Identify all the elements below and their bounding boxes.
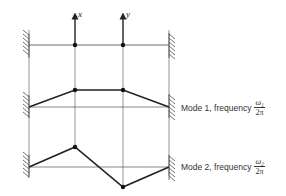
mode-1-frequency-denominator: 2π (255, 108, 265, 117)
vertical-guides (29, 30, 169, 186)
mode-2-text: Mode 2, frequency (181, 162, 251, 172)
mass-1 (73, 43, 77, 47)
mode-1-frequency: ω₁ 2π (254, 98, 264, 117)
mode-1-frequency-numerator: ω₁ (254, 98, 264, 108)
mode-1-text: Mode 1, frequency (181, 103, 251, 113)
mode-2-frequency-numerator: ω₂ (254, 157, 264, 167)
y-coordinate-label: y (126, 9, 130, 19)
mode-1-label: Mode 1, frequency ω₁ 2π (181, 98, 265, 117)
mode-2-label: Mode 2, frequency ω₂ 2π (181, 157, 265, 176)
mode-2-frequency: ω₂ 2π (254, 157, 264, 176)
mode-2-row (29, 145, 169, 189)
wall-hatch-icons (23, 30, 175, 181)
equilibrium-row (29, 16, 169, 47)
mass-2 (121, 43, 125, 47)
mode-2-frequency-denominator: 2π (255, 167, 265, 176)
mode-1-row (29, 88, 169, 107)
x-coordinate-label: x (78, 9, 82, 19)
